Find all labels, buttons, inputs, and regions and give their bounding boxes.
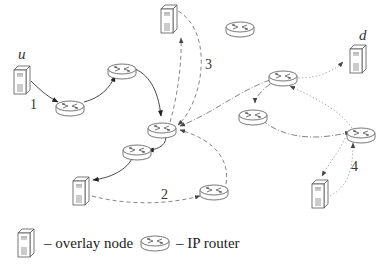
ip-router-icon	[108, 64, 136, 79]
ip-router-icon	[56, 101, 84, 116]
path-label-1: 1	[30, 98, 37, 112]
overlay-node-icon	[350, 45, 366, 73]
source-label-u: u	[18, 47, 26, 62]
dotted-edges	[290, 62, 353, 196]
path-label-2: 2	[161, 188, 168, 202]
ip-router-icon	[239, 110, 267, 125]
ip-router-icon	[347, 128, 375, 143]
path-1-edges	[31, 68, 166, 180]
legend-ip-router-icon	[141, 236, 169, 251]
ip-router-icon	[226, 22, 254, 37]
ip-router-icon	[148, 123, 176, 138]
ip-router-icon	[269, 71, 297, 86]
ip-router-icon	[123, 145, 151, 160]
destination-label-d: d	[359, 28, 367, 43]
dashdot-edges	[180, 80, 350, 137]
overlay-node-icon	[161, 5, 177, 33]
ip-router-icon	[200, 185, 228, 200]
overlay-node-icon	[14, 66, 30, 94]
overlay-node-icon	[312, 180, 328, 208]
legend-overlay-node-icon	[18, 229, 34, 257]
path-label-4: 4	[351, 160, 358, 174]
legend-ip-router-label: – IP router	[176, 236, 240, 251]
overlay-network-diagram	[0, 0, 380, 271]
overlay-node-icon	[73, 177, 89, 205]
legend-overlay-node-label: – overlay node	[44, 236, 133, 251]
path-label-3: 3	[205, 58, 212, 72]
